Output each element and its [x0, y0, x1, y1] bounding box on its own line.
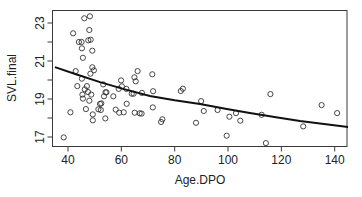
- data-point-marker: [87, 14, 92, 19]
- x-tick-label: 60: [115, 153, 129, 167]
- data-point-marker: [87, 27, 92, 32]
- y-axis: 17192123: [33, 16, 53, 144]
- data-point-marker: [90, 48, 95, 53]
- data-point-marker: [238, 118, 243, 123]
- y-tick-label: 19: [33, 92, 47, 106]
- data-point-marker: [124, 101, 129, 106]
- data-point-marker: [87, 98, 92, 103]
- data-point-marker: [113, 107, 118, 112]
- data-point-marker: [80, 55, 85, 60]
- data-point-marker: [193, 120, 198, 125]
- x-tick-label: 40: [61, 153, 75, 167]
- data-point-marker: [201, 108, 206, 113]
- y-tick-label: 23: [33, 16, 47, 30]
- x-tick-label: 80: [168, 153, 182, 167]
- data-point-marker: [119, 78, 124, 83]
- data-point-marker: [88, 71, 93, 76]
- data-point-marker: [150, 72, 155, 77]
- data-point-marker: [90, 118, 95, 123]
- data-point-marker: [82, 16, 87, 21]
- data-point-marker: [227, 114, 232, 119]
- data-point-marker: [79, 46, 84, 51]
- data-point-marker: [301, 124, 306, 129]
- fitted-curve: [55, 67, 348, 127]
- data-point-marker: [83, 107, 88, 112]
- y-axis-label: SVL.final: [5, 54, 19, 102]
- data-point-marker: [71, 31, 76, 36]
- x-tick-label: 100: [218, 153, 238, 167]
- data-point-marker: [268, 92, 273, 97]
- data-point-marker: [150, 105, 155, 110]
- data-point-marker: [335, 111, 340, 116]
- scatter-chart: 406080100120140 17192123 Age.DPO SVL.fin…: [0, 0, 362, 197]
- data-point-marker: [224, 133, 229, 138]
- data-point-marker: [132, 110, 137, 115]
- x-tick-label: 120: [271, 153, 291, 167]
- y-tick-label: 21: [33, 54, 47, 68]
- data-point-marker: [151, 89, 156, 94]
- data-point-marker: [75, 84, 80, 89]
- data-point-marker: [90, 112, 95, 117]
- data-point-marker: [135, 69, 140, 74]
- x-axis: 406080100120140: [61, 147, 345, 168]
- x-tick-label: 140: [325, 153, 345, 167]
- x-axis-label: Age.DPO: [175, 173, 226, 187]
- y-tick-label: 17: [33, 130, 47, 144]
- data-point-marker: [319, 103, 324, 108]
- data-point-marker: [61, 135, 66, 140]
- data-point-marker: [68, 110, 73, 115]
- data-point-marker: [111, 94, 116, 99]
- plot-frame: [53, 11, 348, 147]
- data-points: [61, 14, 340, 146]
- data-point-marker: [103, 116, 108, 121]
- data-point-marker: [263, 141, 268, 146]
